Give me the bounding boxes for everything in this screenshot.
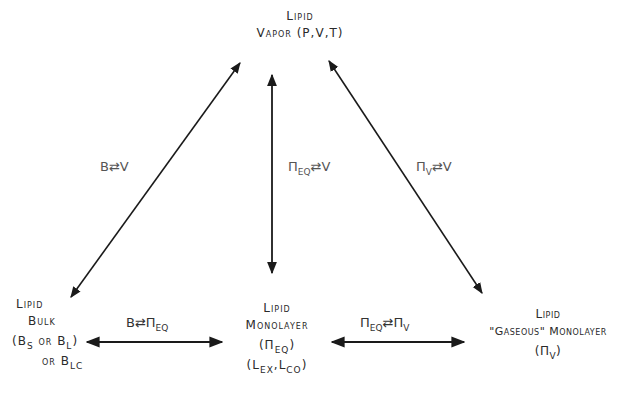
label-gaseous-vapor: ΠV⇄V [416,159,452,174]
node-lipid-vapor: Lipid Vapor (P,V,T) [215,8,385,42]
bulk-line3: (BS or BL) [4,333,94,350]
monolayer-line4: (LEX,LCO) [222,357,332,374]
node-lipid-bulk: Lipid Bulk (BS or BL) or BLC [4,296,94,370]
monolayer-line3: (ΠEQ) [222,337,332,354]
arrow-bulk-vapor [71,63,240,297]
bulk-line2: Bulk [4,313,94,330]
vapor-line1: Lipid [215,8,385,25]
bulk-line4: or BLC [4,353,94,370]
gaseous-line2: "Gaseous" Monolayer [466,323,630,340]
bulk-line1: Lipid [4,296,94,313]
label-monolayer-vapor: ΠEQ⇄V [288,159,330,174]
node-lipid-monolayer: Lipid Monolayer (ΠEQ) (LEX,LCO) [222,300,332,374]
label-bulk-monolayer: B⇄ΠEQ [126,315,168,330]
monolayer-line2: Monolayer [222,317,332,334]
monolayer-line1: Lipid [222,300,332,317]
node-lipid-gaseous-monolayer: Lipid "Gaseous" Monolayer (ΠV) [466,306,630,360]
label-monolayer-gaseous: ΠEQ⇄ΠV [360,315,409,330]
gaseous-line1: Lipid [466,306,630,323]
label-bulk-vapor: B⇄V [100,159,129,174]
arrow-gaseous-vapor [329,61,482,293]
gaseous-line3: (ΠV) [466,343,630,360]
vapor-line2: Vapor (P,V,T) [215,25,385,42]
